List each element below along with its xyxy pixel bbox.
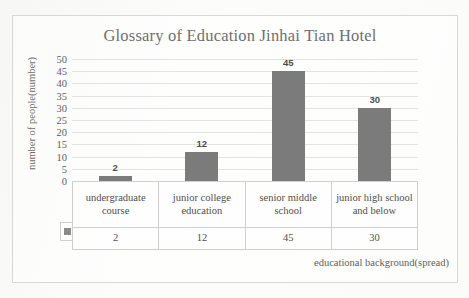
table-cell-value: 45: [245, 228, 331, 250]
table-cell-category: junior college education: [159, 182, 245, 228]
gridline: 35: [72, 96, 418, 97]
table-cell-value: 12: [159, 228, 245, 250]
y-axis-tick-label: 35: [57, 90, 68, 101]
bar: [272, 71, 305, 181]
table-row-values: 2 12 45 30: [73, 228, 418, 250]
bar-value-label: 12: [196, 138, 207, 149]
bar-value-label: 30: [369, 94, 380, 105]
chart-page: Glossary of Education Jinhai Tian Hotel …: [0, 0, 469, 298]
gridline: 45: [72, 71, 418, 72]
y-axis-tick-label: 45: [57, 66, 68, 77]
bar-value-label: 2: [113, 162, 118, 173]
y-axis-tick-label: 40: [57, 78, 68, 89]
table-cell-value: 30: [331, 228, 417, 250]
chart-title: Glossary of Education Jinhai Tian Hotel: [60, 26, 420, 46]
plot-area: 504540353025201510502124530: [72, 59, 418, 181]
x-axis-title: educational background(spread): [0, 257, 449, 268]
bar: [358, 108, 391, 181]
y-axis-title: number of people(number): [26, 39, 37, 189]
y-axis-tick-label: 0: [62, 176, 67, 187]
y-axis-tick-label: 25: [57, 115, 68, 126]
gridline: 50: [72, 59, 418, 60]
y-axis-tick-label: 20: [57, 127, 68, 138]
legend-square-icon: [64, 228, 71, 235]
y-axis-tick-label: 30: [57, 102, 68, 113]
bar-value-label: 45: [283, 57, 294, 68]
table-cell-category: junior high school and below: [331, 182, 417, 228]
table-cell-category: senior middle school: [245, 182, 331, 228]
y-axis-tick-label: 10: [57, 151, 68, 162]
y-axis-tick-label: 50: [57, 54, 68, 65]
gridline: 40: [72, 83, 418, 84]
table-cell-category: undergraduate course: [73, 182, 159, 228]
y-axis-tick-label: 5: [62, 163, 67, 174]
data-table: undergraduate course junior college educ…: [72, 181, 418, 250]
y-axis-tick-label: 15: [57, 139, 68, 150]
table-row-categories: undergraduate course junior college educ…: [73, 182, 418, 228]
table-cell-value: 2: [73, 228, 159, 250]
bar: [185, 152, 218, 181]
